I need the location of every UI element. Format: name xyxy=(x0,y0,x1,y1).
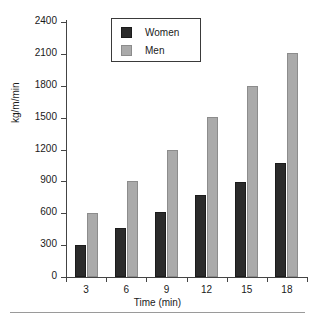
legend-swatch-women-icon xyxy=(121,27,132,38)
bar-women-18 xyxy=(275,163,286,277)
bar-men-18 xyxy=(287,53,298,277)
bar-men-12 xyxy=(207,117,218,277)
y-axis-tick-label: 1200 xyxy=(35,143,57,155)
bar-women-15 xyxy=(235,182,246,277)
bar-women-12 xyxy=(195,195,206,277)
x-axis-tick-mark xyxy=(106,277,107,282)
y-axis-title: kg/m/min xyxy=(10,82,22,123)
legend-item-women: Women xyxy=(121,25,200,40)
x-axis-tick-mark xyxy=(187,277,188,282)
chart-legend: Women Men xyxy=(111,18,201,62)
y-axis-tick-label: 1800 xyxy=(35,79,57,91)
y-axis-tick-label: 300 xyxy=(40,238,57,250)
x-axis-tick-label: 9 xyxy=(146,284,186,296)
legend-label-women: Women xyxy=(145,27,179,38)
x-axis-tick-label: 12 xyxy=(187,284,227,296)
x-axis-tick-label: 3 xyxy=(66,284,106,296)
y-axis-tick-label: 2100 xyxy=(35,47,57,59)
x-axis-title: Time (min) xyxy=(0,297,315,309)
y-axis-tick-label: 600 xyxy=(40,206,57,218)
x-axis-tick-mark xyxy=(146,277,147,282)
y-axis-tick-label: 1500 xyxy=(35,111,57,123)
legend-swatch-men-icon xyxy=(121,45,132,56)
bar-women-3 xyxy=(75,245,86,277)
y-axis-tick-label: 0 xyxy=(51,270,57,282)
x-axis-tick-mark xyxy=(66,277,67,282)
bar-men-6 xyxy=(127,181,138,277)
bar-women-6 xyxy=(115,228,126,277)
bar-men-3 xyxy=(87,213,98,277)
bar-men-9 xyxy=(167,150,178,278)
x-axis-tick-label: 18 xyxy=(267,284,307,296)
bar-men-15 xyxy=(247,86,258,277)
x-axis-tick-label: 15 xyxy=(227,284,267,296)
y-axis-tick-label: 900 xyxy=(40,174,57,186)
legend-label-men: Men xyxy=(145,45,164,56)
x-axis-tick-mark xyxy=(227,277,228,282)
footer-divider xyxy=(10,312,305,313)
bar-chart-figure: 030060090012001500180021002400 369121518… xyxy=(0,0,315,325)
bar-women-9 xyxy=(155,212,166,277)
x-axis-tick-mark xyxy=(307,277,308,282)
x-axis-tick-label: 6 xyxy=(106,284,146,296)
x-axis-tick-mark xyxy=(267,277,268,282)
y-axis-tick-label: 2400 xyxy=(35,15,57,27)
legend-item-men: Men xyxy=(121,43,200,58)
